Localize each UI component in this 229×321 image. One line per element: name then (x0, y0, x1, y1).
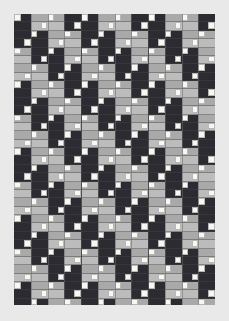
quilt-cell (64, 165, 81, 182)
white-accent-square (31, 165, 38, 172)
quilt-strip (48, 232, 65, 240)
white-accent-square (192, 140, 199, 147)
quilt-strip (165, 274, 182, 282)
quilt-cell (98, 98, 115, 115)
white-accent-square (198, 265, 205, 272)
quilt-cell (165, 299, 182, 305)
quilt-strip (131, 48, 148, 56)
white-accent-square (148, 282, 155, 289)
quilt-strip (48, 198, 65, 206)
quilt-cell (98, 31, 115, 48)
quilt-strip (198, 240, 215, 248)
white-accent-square (14, 282, 21, 289)
quilt-strip (48, 223, 65, 231)
quilt-strip (131, 39, 148, 47)
white-accent-square (108, 123, 115, 130)
quilt-strip (48, 299, 65, 305)
white-accent-square (198, 232, 205, 239)
white-accent-square (182, 81, 189, 88)
quilt-strip (31, 39, 48, 47)
white-accent-square (41, 223, 48, 230)
quilt-cell (182, 64, 199, 81)
quilt-cell (182, 165, 199, 182)
white-accent-square (125, 106, 132, 113)
quilt-strip (165, 173, 182, 181)
quilt-cell (64, 249, 81, 266)
quilt-strip (165, 182, 182, 190)
quilt-strip (165, 73, 182, 81)
quilt-cell (148, 64, 165, 81)
quilt-cell (48, 98, 65, 115)
white-accent-square (165, 31, 172, 38)
white-accent-square (208, 56, 215, 63)
quilt-cell (182, 282, 199, 299)
quilt-strip (81, 98, 98, 106)
quilt-strip (115, 190, 132, 198)
white-accent-square (91, 207, 98, 214)
quilt-strip (64, 215, 81, 223)
white-accent-square (98, 198, 105, 205)
quilt-cell (64, 282, 81, 299)
quilt-strip (165, 140, 182, 148)
quilt-strip (182, 257, 199, 265)
quilt-strip (14, 232, 31, 240)
quilt-strip (198, 173, 215, 181)
quilt-cell (198, 165, 215, 182)
quilt-cell (198, 265, 215, 282)
white-accent-square (131, 265, 138, 272)
quilt-strip (98, 215, 115, 223)
white-accent-square (148, 249, 155, 256)
quilt-cell (148, 215, 165, 232)
quilt-cell (14, 299, 31, 305)
quilt-cell (115, 215, 132, 232)
white-accent-square (198, 64, 205, 71)
quilt-cell (165, 131, 182, 148)
quilt-strip (64, 48, 81, 56)
quilt-strip (182, 89, 199, 97)
white-accent-square (115, 182, 122, 189)
quilt-strip (131, 240, 148, 248)
quilt-strip (48, 265, 65, 273)
white-accent-square (14, 249, 21, 256)
quilt-strip (115, 265, 132, 273)
white-accent-square (98, 31, 105, 38)
quilt-strip (182, 299, 199, 305)
quilt-strip (64, 140, 81, 148)
quilt-strip (81, 156, 98, 164)
white-accent-square (115, 282, 122, 289)
quilt-cell (182, 81, 199, 98)
quilt-cell (165, 265, 182, 282)
block-divider-line (148, 14, 149, 305)
quilt-cell (98, 182, 115, 199)
quilt-strip (148, 290, 165, 298)
quilt-strip (31, 240, 48, 248)
quilt-cell (48, 148, 65, 165)
white-accent-square (108, 257, 115, 264)
quilt-strip (148, 257, 165, 265)
white-accent-square (14, 48, 21, 55)
quilt-cell (98, 198, 115, 215)
white-accent-square (125, 140, 132, 147)
quilt-strip (81, 198, 98, 206)
white-accent-square (165, 299, 172, 305)
quilt-strip (14, 265, 31, 273)
white-accent-square (48, 215, 55, 222)
quilt-cell (48, 48, 65, 65)
quilt-strip (165, 39, 182, 47)
quilt-strip (165, 207, 182, 215)
quilt-cell (131, 265, 148, 282)
quilt-cell (198, 148, 215, 165)
white-accent-square (81, 48, 88, 55)
quilt-strip (182, 223, 199, 231)
quilt-strip (182, 98, 199, 106)
quilt-cell (48, 198, 65, 215)
quilt-cell (98, 282, 115, 299)
white-accent-square (14, 215, 21, 222)
quilt-cell (131, 215, 148, 232)
quilt-strip (148, 165, 165, 173)
white-accent-square (175, 257, 182, 264)
quilt-cell (115, 81, 132, 98)
quilt-strip (31, 48, 48, 56)
quilt-strip (115, 131, 132, 139)
quilt-strip (182, 165, 199, 173)
